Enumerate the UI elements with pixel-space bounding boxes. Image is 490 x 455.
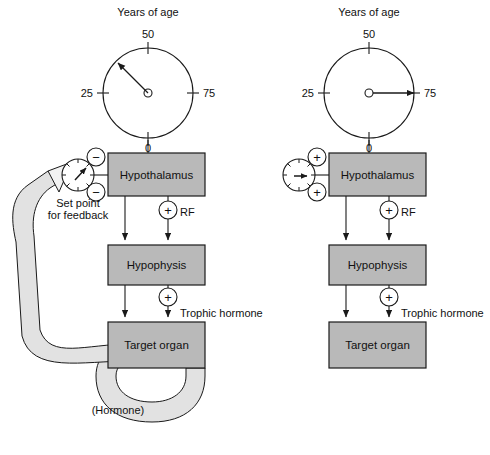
box-label: Hypophysis [348,259,408,271]
clock-label-50: 50 [142,28,154,40]
clock-dial: 50 25 75 0 [302,28,437,154]
clock-label-25: 25 [81,87,93,99]
sign-plus-trophic: + [159,288,177,306]
clock-label-25: 25 [302,87,314,99]
figure-canvas: Years of age 50 25 75 0 (Hormone) [0,0,490,455]
sign-plus-lower: + [308,183,326,201]
clock-hand [118,63,148,93]
sign-glyph: + [313,185,321,200]
rf-label: RF [401,206,416,218]
clock-title: Years of age [338,6,399,18]
sign-glyph: − [92,150,100,165]
clock-dial: 50 25 75 0 [81,28,216,154]
sign-glyph: + [313,150,321,165]
box-hypothalamus: Hypothalamus [108,153,205,196]
sign-minus-lower: − [87,183,105,201]
clock-label-75: 75 [424,87,436,99]
rf-label: RF [180,206,195,218]
sign-glyph: + [385,203,393,218]
box-label: Target organ [124,339,189,351]
box-hypothalamus: Hypothalamus [329,153,426,196]
clock-label-75: 75 [203,87,215,99]
box-hypophysis: Hypophysis [329,245,426,285]
sign-glyph: − [92,185,100,200]
sign-plus-rf: + [380,201,398,219]
trophic-hormone-label: Trophic hormone [180,307,263,319]
sign-minus-upper: − [87,148,105,166]
clock-label-50: 50 [363,28,375,40]
sign-plus-rf: + [159,201,177,219]
diagram-svg: Years of age 50 25 75 0 (Hormone) [0,0,490,455]
sign-plus-trophic: + [380,288,398,306]
box-label: Hypophysis [127,259,187,271]
trophic-hormone-label: Trophic hormone [401,307,484,319]
feedback-label: (Hormone) [92,404,145,416]
box-label: Hypothalamus [120,169,194,181]
sign-glyph: + [164,203,172,218]
box-target-organ: Target organ [108,322,205,368]
sign-glyph: + [385,290,393,305]
panel-left: Years of age 50 25 75 0 (Hormone) [13,6,263,434]
gauge-label-line2: for feedback [48,209,109,221]
panel-right: Years of age 50 25 75 0 [283,6,484,368]
box-target-organ: Target organ [329,322,426,368]
clock-title: Years of age [117,6,178,18]
sign-glyph: + [164,290,172,305]
clock-hub [365,89,373,97]
box-hypophysis: Hypophysis [108,245,205,285]
box-label: Target organ [345,339,410,351]
sign-plus-upper: + [308,148,326,166]
box-label: Hypothalamus [341,169,415,181]
